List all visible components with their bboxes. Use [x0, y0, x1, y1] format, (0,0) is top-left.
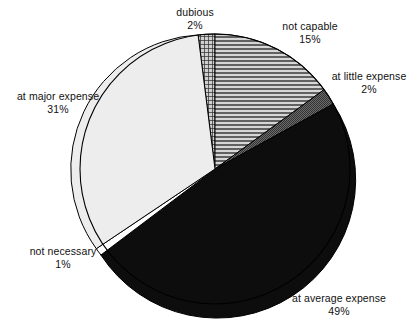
pie-label-not-necessary: not necessary 1%	[16, 245, 110, 271]
pie-label-at-major-expense-name: at major expense	[6, 90, 110, 103]
pie-label-not-capable: not capable 15%	[258, 20, 362, 46]
pie-label-not-necessary-value: 1%	[16, 258, 110, 271]
pie-label-at-little-expense: at little expense 2%	[322, 70, 416, 96]
pie-label-at-major-expense-value: 31%	[6, 103, 110, 116]
pie-chart-canvas	[0, 0, 416, 328]
pie-label-not-necessary-name: not necessary	[16, 245, 110, 258]
pie-label-dubious-value: 2%	[150, 19, 240, 32]
pie-chart-figure: dubious 2% not capable 15% at little exp…	[0, 0, 416, 328]
pie-label-dubious-name: dubious	[150, 6, 240, 19]
pie-label-not-capable-value: 15%	[258, 33, 362, 46]
pie-label-at-average-expense-value: 49%	[272, 305, 406, 318]
pie-label-at-little-expense-value: 2%	[322, 83, 416, 96]
pie-label-at-average-expense: at average expense 49%	[272, 292, 406, 318]
pie-label-not-capable-name: not capable	[258, 20, 362, 33]
pie-label-at-little-expense-name: at little expense	[322, 70, 416, 83]
pie-label-at-average-expense-name: at average expense	[272, 292, 406, 305]
pie-label-at-major-expense: at major expense 31%	[6, 90, 110, 116]
pie-label-dubious: dubious 2%	[150, 6, 240, 32]
